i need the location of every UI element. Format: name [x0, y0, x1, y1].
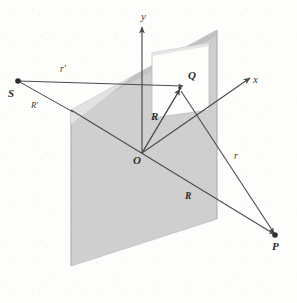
- R-prime-label: R': [31, 101, 38, 110]
- r-vector-label: r: [234, 152, 238, 162]
- diagram-svg: [0, 0, 297, 303]
- R-vector-label: R: [151, 111, 158, 122]
- R-lower-vector-label: R: [185, 192, 191, 202]
- R-prime-line: [18, 81, 73, 112]
- y-axis-label: y: [141, 11, 146, 22]
- observation-point-label: P: [272, 241, 279, 252]
- origin-label: O: [133, 155, 141, 166]
- source-point-dot: [15, 78, 21, 84]
- aperture-opening: [152, 40, 213, 118]
- aperture-point-label: Q: [188, 70, 196, 81]
- observation-point-dot: [272, 232, 278, 238]
- diagram-canvas: y x O S Q P r' R' R r R: [0, 0, 297, 303]
- source-point-label: S: [8, 88, 14, 99]
- aperture-point-dot: [178, 86, 181, 89]
- x-axis-label: x: [253, 74, 258, 85]
- r-prime-label: r': [60, 65, 66, 75]
